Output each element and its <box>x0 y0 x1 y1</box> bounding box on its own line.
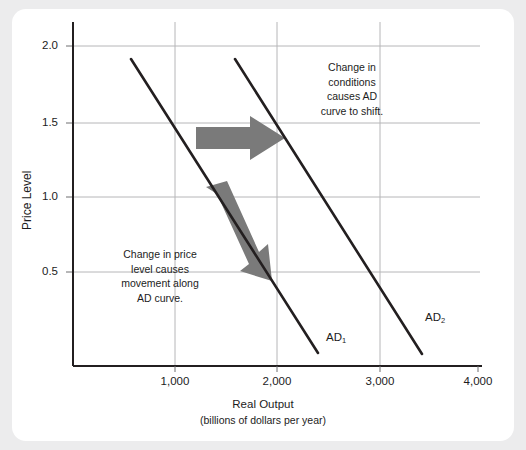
y-tick-marks <box>66 46 73 272</box>
ad2-label-subscript: 2 <box>441 316 445 325</box>
x-tick-label-4000: 4,000 <box>448 375 508 388</box>
figure-root: 2.0 1.5 1.0 0.5 Price Level 1,000 2,000 … <box>0 0 526 450</box>
x-axis-title: Real Output <box>0 398 526 410</box>
shift-note-line-3: causes AD <box>293 89 411 104</box>
x-tick-label-2000: 2,000 <box>247 375 307 388</box>
x-tick-label-3000: 3,000 <box>350 375 410 388</box>
shift-note-line-1: Change in <box>293 60 411 75</box>
shift-note-line-4: curve to shift. <box>293 104 411 119</box>
y-tick-label-2: 2.0 <box>24 39 58 52</box>
ad1-label-text: AD <box>326 331 342 343</box>
y-tick-label-1_5: 1.5 <box>24 116 58 129</box>
movement-note: Change in price level causes movement al… <box>100 247 220 305</box>
ad-curve-chart: 2.0 1.5 1.0 0.5 Price Level 1,000 2,000 … <box>0 0 526 450</box>
x-tick-label-1000: 1,000 <box>145 375 205 388</box>
y-tick-label-0_5: 0.5 <box>24 265 58 278</box>
y-axis-title: Price Level <box>20 171 34 230</box>
movement-note-line-3: movement along <box>100 276 220 291</box>
ad1-curve <box>131 59 318 353</box>
ad1-label-subscript: 1 <box>342 336 346 345</box>
movement-note-line-4: AD curve. <box>100 291 220 306</box>
shift-note-line-2: conditions <box>293 75 411 90</box>
ad2-curve-label: AD2 <box>425 311 445 323</box>
shift-note: Change in conditions causes AD curve to … <box>293 60 411 118</box>
ad1-curve-label: AD1 <box>326 331 346 343</box>
movement-note-line-1: Change in price <box>100 247 220 262</box>
ad2-label-text: AD <box>425 311 441 323</box>
movement-note-line-2: level causes <box>100 262 220 277</box>
x-axis-subtitle: (billions of dollars per year) <box>0 414 526 426</box>
